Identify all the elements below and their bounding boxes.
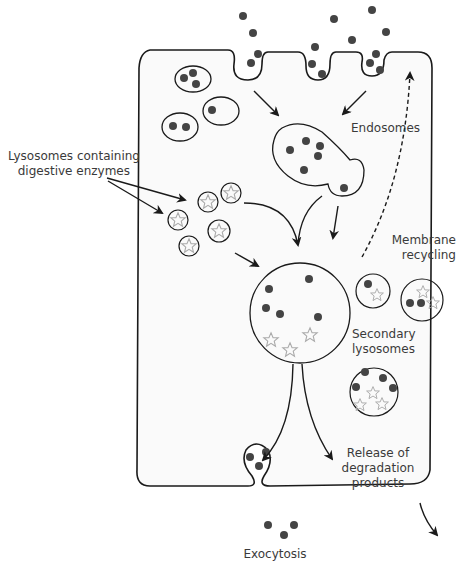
endosomes-label: Endosomes bbox=[351, 121, 420, 136]
external-particles-top bbox=[239, 6, 390, 44]
release-label: Release of degradation products bbox=[338, 446, 418, 491]
lysosomes-label: Lysosomes containing digestive enzymes bbox=[4, 149, 140, 179]
exocytosis-label: Exocytosis bbox=[240, 547, 310, 562]
membrane-recycling-label: Membrane recycling bbox=[380, 233, 456, 263]
secondary-lysosomes-label: Secondary lysosomes bbox=[352, 327, 412, 357]
